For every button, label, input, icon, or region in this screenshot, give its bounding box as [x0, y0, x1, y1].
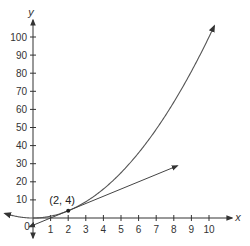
y-tick-label: 80	[16, 68, 28, 79]
y-tick-label: 20	[16, 176, 28, 187]
x-tick-label: 6	[136, 224, 142, 235]
y-tick-label: 50	[16, 122, 28, 133]
chart-canvas: 102030405060708090100 y 12345678910 x 0 …	[0, 0, 250, 246]
y-axis-label: y	[27, 6, 35, 18]
y-tick-label: 10	[16, 194, 28, 205]
origin-label: 0	[24, 221, 30, 232]
x-tick-label: 9	[189, 224, 195, 235]
y-tick-label: 100	[10, 32, 27, 43]
point-label: (2, 4)	[49, 194, 75, 206]
x-axis-label: x	[234, 211, 241, 223]
x-tick-label: 5	[118, 224, 124, 235]
x-tick-label: 10	[203, 224, 215, 235]
x-tick-label: 7	[153, 224, 159, 235]
tangent-point	[66, 209, 70, 213]
parabola-curve	[5, 26, 214, 218]
x-tick-label: 2	[65, 224, 71, 235]
y-tick-label: 90	[16, 50, 28, 61]
y-tick-label: 40	[16, 140, 28, 151]
x-tick-label: 8	[171, 224, 177, 235]
y-tick-label: 60	[16, 104, 28, 115]
x-tick-label: 3	[83, 224, 89, 235]
y-axis: 102030405060708090100 y	[10, 6, 36, 238]
x-tick-label: 1	[48, 224, 54, 235]
x-tick-label: 4	[101, 224, 107, 235]
y-tick-label: 70	[16, 86, 28, 97]
y-tick-label: 30	[16, 158, 28, 169]
